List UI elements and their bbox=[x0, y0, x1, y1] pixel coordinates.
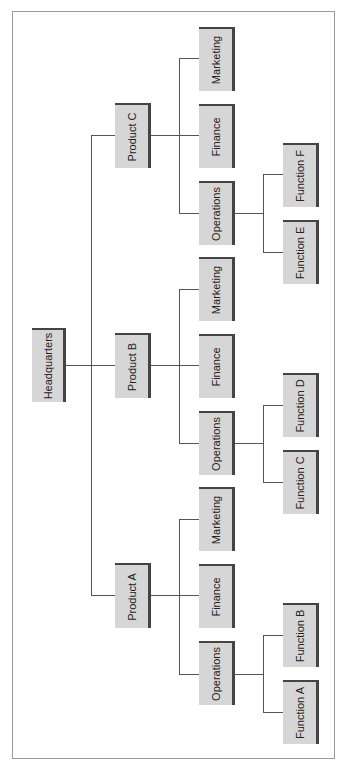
node-pc-finance: Finance bbox=[199, 104, 235, 168]
connector bbox=[263, 712, 283, 713]
connector bbox=[179, 519, 199, 520]
connector bbox=[234, 674, 263, 675]
node-function-a: Function A bbox=[283, 680, 319, 744]
connector bbox=[91, 135, 115, 136]
node-product-c: Product C bbox=[115, 103, 151, 168]
node-pb-finance: Finance bbox=[199, 334, 235, 398]
node-product-b: Product B bbox=[115, 333, 151, 398]
connector bbox=[263, 174, 283, 175]
node-function-b: Function B bbox=[283, 603, 319, 667]
connector bbox=[150, 595, 200, 596]
connector bbox=[179, 674, 199, 675]
connector bbox=[179, 289, 180, 443]
connector bbox=[263, 174, 264, 252]
node-headquarters: Headquarters bbox=[32, 328, 66, 402]
connector bbox=[234, 443, 263, 444]
connector bbox=[263, 482, 283, 483]
connector bbox=[263, 635, 264, 712]
node-pc-marketing: Marketing bbox=[199, 27, 235, 91]
node-pb-operations: Operations bbox=[199, 411, 235, 475]
connector bbox=[263, 405, 264, 482]
connector bbox=[263, 405, 283, 406]
connector bbox=[179, 58, 180, 213]
node-pa-finance: Finance bbox=[199, 564, 235, 628]
node-pa-marketing: Marketing bbox=[199, 487, 235, 551]
node-function-e: Function E bbox=[283, 220, 319, 284]
node-pc-operations: Operations bbox=[199, 181, 235, 245]
node-product-a: Product A bbox=[115, 563, 151, 628]
connector bbox=[91, 365, 115, 366]
connector bbox=[263, 635, 283, 636]
connector bbox=[65, 365, 91, 366]
node-pa-operations: Operations bbox=[199, 641, 235, 705]
connector bbox=[179, 519, 180, 674]
connector bbox=[91, 595, 115, 596]
connector bbox=[179, 289, 199, 290]
node-function-d: Function D bbox=[283, 373, 319, 437]
node-function-f: Function F bbox=[283, 143, 319, 207]
connector bbox=[179, 443, 199, 444]
connector bbox=[150, 135, 200, 136]
connector bbox=[263, 252, 283, 253]
connector bbox=[234, 213, 263, 214]
connector bbox=[179, 213, 199, 214]
node-pb-marketing: Marketing bbox=[199, 257, 235, 321]
connector bbox=[150, 365, 200, 366]
node-function-c: Function C bbox=[283, 450, 319, 514]
connector bbox=[179, 58, 199, 59]
